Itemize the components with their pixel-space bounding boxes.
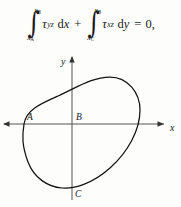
differential-1-var: x [64,17,70,31]
point-label-c: C [75,189,82,199]
differential-2: dy [118,17,130,32]
cross-section-outline [23,77,140,188]
equals-sign: = [134,17,141,32]
integral-1-lower-sub: A [31,36,34,42]
x-axis-label: x [169,122,175,133]
x-axis [3,121,164,126]
plus-operator: + [74,17,81,32]
differential-2-var: y [124,17,130,31]
integral-1-upper-sub: B [38,9,41,15]
right-hand-side: 0, [145,17,154,32]
y-axis-label: y [60,56,66,67]
integral-1-lower-limit: xA [27,33,33,42]
integral-2-upper-sub: B [98,9,101,15]
integral-term-2: ∫ xB xC τxz dy [86,7,129,41]
equation-line: ∫ xB xA τyz dx + ∫ xB xC τxz dy = 0, [0,0,181,48]
integral-2-upper-limit: xB [94,6,100,15]
figure-container: ∫ xB xA τyz dx + ∫ xB xC τxz dy = 0, [0,0,181,207]
integral-2-lower-limit: xC [87,33,94,42]
point-label-b: B [76,112,82,122]
integral-sign-2: ∫ xB xC [86,7,101,41]
integral-1-upper-limit: xB [34,6,40,15]
differential-1: dx [57,17,69,32]
integral-2-lower-sub: C [91,36,94,42]
point-label-a: A [26,112,33,122]
cross-section-diagram: x y A B C [0,48,181,207]
integral-sign-1: ∫ xB xA [26,7,41,41]
integrand-1-subscript: yz [47,20,54,29]
integral-term-1: ∫ xB xA τyz dx [26,7,69,41]
integrand-2-subscript: xz [107,20,114,29]
y-axis [69,56,74,200]
